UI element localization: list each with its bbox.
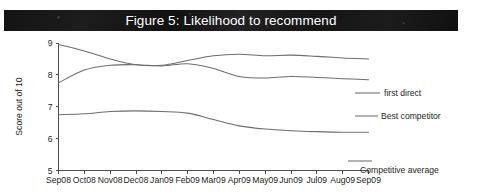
x-tick-label: Dec08 [124, 175, 149, 185]
x-tick-label: Aug09 [330, 175, 355, 185]
figure-container: Figure 5: Likelihood to recommend 56789 … [0, 0, 478, 196]
x-tick-label: Sep09 [356, 175, 381, 185]
series-label-best-competitor: Best competitor [381, 111, 441, 121]
x-tick-label: Apr09 [228, 175, 251, 185]
x-tick-label: Mar09 [201, 175, 226, 185]
series-label-competitive-average: Competitive average [360, 165, 439, 175]
x-tick-label-group: Sep08Oct08Nov08Dec08Jan09Feb09Mar09Apr09… [46, 175, 381, 185]
series-label-first-direct: first direct [384, 88, 422, 98]
figure-title: Figure 5: Likelihood to recommend [4, 10, 458, 31]
series-group [59, 45, 369, 133]
y-tick-label: 7 [48, 102, 53, 112]
x-tick-label: Jun09 [279, 175, 303, 185]
series-annotations: first direct Best competitor Competitive… [348, 88, 441, 176]
x-tick-label: Jan09 [150, 175, 174, 185]
x-tick-label: Sep08 [46, 175, 71, 185]
x-axis: Sep08Oct08Nov08Dec08Jan09Feb09Mar09Apr09… [46, 171, 381, 185]
x-tick-label: May09 [252, 175, 278, 185]
figure-title-banner: Figure 5: Likelihood to recommend [4, 10, 458, 31]
chart-plot-area: 56789 Score out of 10 Sep08Oct08Nov08Dec… [0, 31, 478, 196]
series-line-first-direct [59, 45, 369, 66]
y-tick-label: 9 [48, 38, 53, 48]
series-line-competitive-average [59, 111, 369, 132]
x-tick-label: Oct08 [73, 175, 96, 185]
y-tick-group: 56789 [48, 38, 59, 176]
line-chart-svg: 56789 Score out of 10 Sep08Oct08Nov08Dec… [0, 31, 478, 196]
series-line-best-competitor [59, 64, 369, 83]
x-tick-label: Nov08 [98, 175, 123, 185]
x-tick-label: Jul09 [307, 175, 328, 185]
y-tick-label: 6 [48, 134, 53, 144]
y-axis: 56789 Score out of 10 [14, 38, 59, 176]
x-tick-label: Feb09 [175, 175, 200, 185]
y-tick-label: 8 [48, 70, 53, 80]
y-axis-title: Score out of 10 [14, 77, 24, 136]
